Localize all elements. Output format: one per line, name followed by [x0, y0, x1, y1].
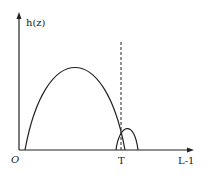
y-axis-label: h(z) — [26, 18, 46, 28]
small-hump-curve — [116, 129, 138, 150]
large-hump-curve — [25, 68, 125, 151]
histogram-diagram: h(z) O T L-1 — [0, 0, 206, 175]
origin-label: O — [11, 155, 19, 165]
threshold-label: T — [118, 156, 125, 166]
x-axis-arrow-icon — [187, 148, 194, 153]
y-axis-arrow-icon — [17, 12, 22, 19]
x-axis-end-label: L-1 — [178, 156, 194, 166]
